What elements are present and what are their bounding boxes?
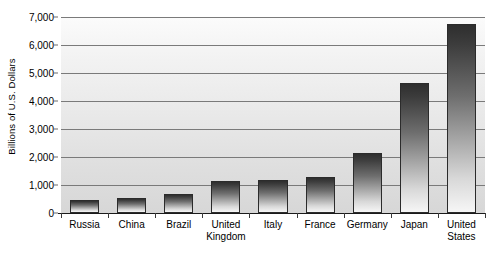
x-axis-label-line: United xyxy=(438,219,485,231)
x-axis-tick-mark xyxy=(485,213,486,218)
y-axis-tick-mark xyxy=(54,45,58,46)
x-axis-label: UnitedKingdom xyxy=(202,219,249,242)
x-axis-label: Germany xyxy=(344,219,391,231)
bar-russia xyxy=(70,200,99,213)
y-axis-tick-mark xyxy=(54,73,58,74)
bar-united-kingdom xyxy=(211,181,240,213)
x-axis-label: Japan xyxy=(391,219,438,231)
x-axis-label: China xyxy=(108,219,155,231)
bar-chart: Billions of U.S. Dollars 01,0002,0003,00… xyxy=(0,0,493,255)
y-axis-tick-labels: 01,0002,0003,0004,0005,0006,0007,000 xyxy=(22,0,58,220)
y-axis-tick-label: 6,000 xyxy=(29,40,54,51)
bar-france xyxy=(306,177,335,213)
x-axis-tick-mark xyxy=(297,213,298,218)
x-axis-tick-mark xyxy=(249,213,250,218)
x-axis-tick-mark xyxy=(155,213,156,218)
y-axis-tick-label: 5,000 xyxy=(29,68,54,79)
y-axis-tick-mark xyxy=(54,157,58,158)
x-axis-label-line: Brazil xyxy=(155,219,202,231)
gridline xyxy=(61,17,485,18)
bar-italy xyxy=(258,180,287,213)
bar-brazil xyxy=(164,194,193,213)
x-axis-label: UnitedStates xyxy=(438,219,485,242)
y-axis-tick-label: 7,000 xyxy=(29,12,54,23)
x-axis-tick-mark xyxy=(61,213,62,218)
y-axis-tick-mark xyxy=(54,101,58,102)
x-axis-tick-mark xyxy=(438,213,439,218)
x-axis-label-line: France xyxy=(297,219,344,231)
y-axis-tick-label: 3,000 xyxy=(29,124,54,135)
x-axis-tick-mark xyxy=(202,213,203,218)
y-axis-tick-label: 4,000 xyxy=(29,96,54,107)
y-axis-tick-mark xyxy=(54,129,58,130)
x-axis-tick-mark xyxy=(391,213,392,218)
y-axis-title: Billions of U.S. Dollars xyxy=(0,0,22,213)
x-axis-tick-labels: RussiaChinaBrazilUnitedKingdomItalyFranc… xyxy=(61,219,485,253)
bar-china xyxy=(117,198,146,213)
x-axis-label-line: China xyxy=(108,219,155,231)
x-axis-label: Brazil xyxy=(155,219,202,231)
x-axis-tick-mark xyxy=(344,213,345,218)
x-axis-baseline xyxy=(58,213,485,214)
x-axis-label-line: United xyxy=(202,219,249,231)
x-axis-label: France xyxy=(297,219,344,231)
y-axis-tick-mark xyxy=(54,185,58,186)
plot-area xyxy=(61,17,485,213)
bar-germany xyxy=(353,153,382,213)
x-axis-tick-mark xyxy=(108,213,109,218)
x-axis-label-line: States xyxy=(438,231,485,243)
bar-united-states xyxy=(447,24,476,213)
y-axis-tick-label: 1,000 xyxy=(29,180,54,191)
y-axis-title-text: Billions of U.S. Dollars xyxy=(6,58,17,154)
y-axis-tick-label: 2,000 xyxy=(29,152,54,163)
x-axis-label-line: Japan xyxy=(391,219,438,231)
x-axis-label: Russia xyxy=(61,219,108,231)
bar-japan xyxy=(400,83,429,213)
gridline xyxy=(61,73,485,74)
y-axis-tick-mark xyxy=(54,17,58,18)
gridline xyxy=(61,45,485,46)
x-axis-label-line: Germany xyxy=(344,219,391,231)
x-axis-label-line: Kingdom xyxy=(202,231,249,243)
x-axis-label-line: Italy xyxy=(249,219,296,231)
x-axis-label-line: Russia xyxy=(61,219,108,231)
x-axis-label: Italy xyxy=(249,219,296,231)
